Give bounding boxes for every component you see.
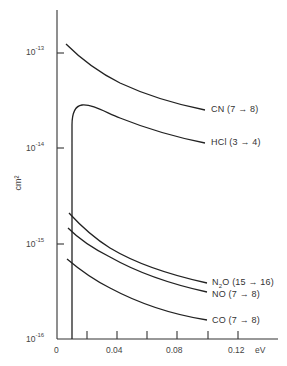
x-tick-label-0.12: 0.12 <box>228 345 245 355</box>
label-n2o: N2O (15 → 16) <box>212 277 274 289</box>
curve-n2o <box>69 213 207 283</box>
label-no: NO (7 → 8) <box>212 289 260 299</box>
y-axis-label: cm² <box>13 176 23 191</box>
y-tick-label-1e-16: 10-16 <box>26 332 44 344</box>
x-tick-label-0.08: 0.08 <box>166 345 183 355</box>
y-ticks <box>57 53 64 244</box>
curve-hcl <box>72 105 205 339</box>
x-ticks <box>87 331 238 339</box>
label-hcl: HCl (3 → 4) <box>211 137 261 147</box>
x-tick-label-0: 0 <box>54 345 59 355</box>
x-tick-label-0.04: 0.04 <box>106 345 123 355</box>
label-cn: CN (7 → 8) <box>211 104 259 114</box>
label-co: CO (7 → 8) <box>212 315 260 325</box>
x-axis-unit: eV <box>255 345 265 355</box>
y-tick-label-1e-13: 10-13 <box>26 45 44 57</box>
curve-co <box>67 259 207 320</box>
curve-no <box>68 228 207 292</box>
y-tick-label-1e-15: 10-15 <box>26 237 44 249</box>
curve-cn <box>66 44 205 110</box>
y-tick-label-1e-14: 10-14 <box>26 141 44 153</box>
